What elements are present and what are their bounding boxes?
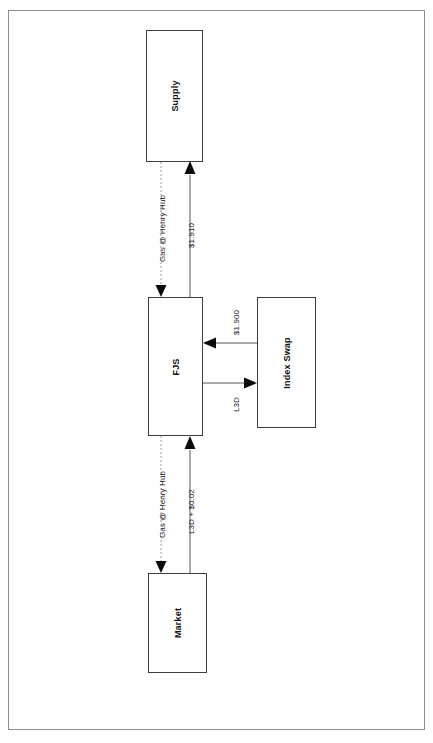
edge-label-market-to-fjs: L3D + $0.02 xyxy=(187,489,196,534)
page-canvas: Supply FJS Index Swap Market Gas @ Henry… xyxy=(0,0,433,743)
node-fjs-label: FJS xyxy=(171,358,181,375)
edge-label-fjs-to-market: Gas @ Henry Hub xyxy=(158,471,167,538)
node-fjs[interactable]: FJS xyxy=(148,297,203,436)
node-index-swap[interactable]: Index Swap xyxy=(257,297,316,428)
edge-label-fjs-to-supply: $1.910 xyxy=(187,223,196,248)
node-market-label: Market xyxy=(173,608,183,638)
edge-label-supply-to-fjs: Gas @ Henry Hub xyxy=(158,195,167,262)
edge-label-indexswap-to-fjs: $1.900 xyxy=(232,310,241,335)
edge-label-fjs-to-indexswap: L3D xyxy=(232,397,241,412)
connector-indexswap-to-fjs xyxy=(203,338,257,349)
node-supply[interactable]: Supply xyxy=(146,30,203,162)
node-supply-label: Supply xyxy=(170,80,180,111)
node-index-swap-label: Index Swap xyxy=(282,337,292,389)
connector-layer xyxy=(0,0,433,743)
connector-fjs-to-indexswap xyxy=(203,378,257,389)
node-market[interactable]: Market xyxy=(148,573,207,673)
